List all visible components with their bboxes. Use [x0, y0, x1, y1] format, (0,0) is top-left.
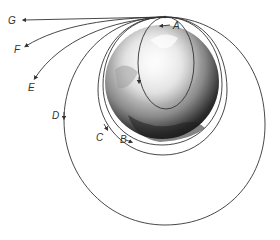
label-e: E	[28, 82, 35, 93]
launch-point	[164, 16, 166, 18]
earth-globe	[105, 25, 219, 142]
label-a: A	[172, 20, 180, 31]
trajectory-c-arrow-icon	[104, 124, 107, 129]
label-d: D	[52, 110, 59, 121]
trajectory-b-arrow-icon	[126, 140, 131, 142]
label-b: B	[120, 134, 127, 145]
label-c: C	[96, 132, 104, 143]
label-g: G	[8, 15, 16, 26]
orbital-trajectories-diagram: G F E D C B A	[0, 0, 280, 240]
label-f: F	[14, 44, 21, 55]
